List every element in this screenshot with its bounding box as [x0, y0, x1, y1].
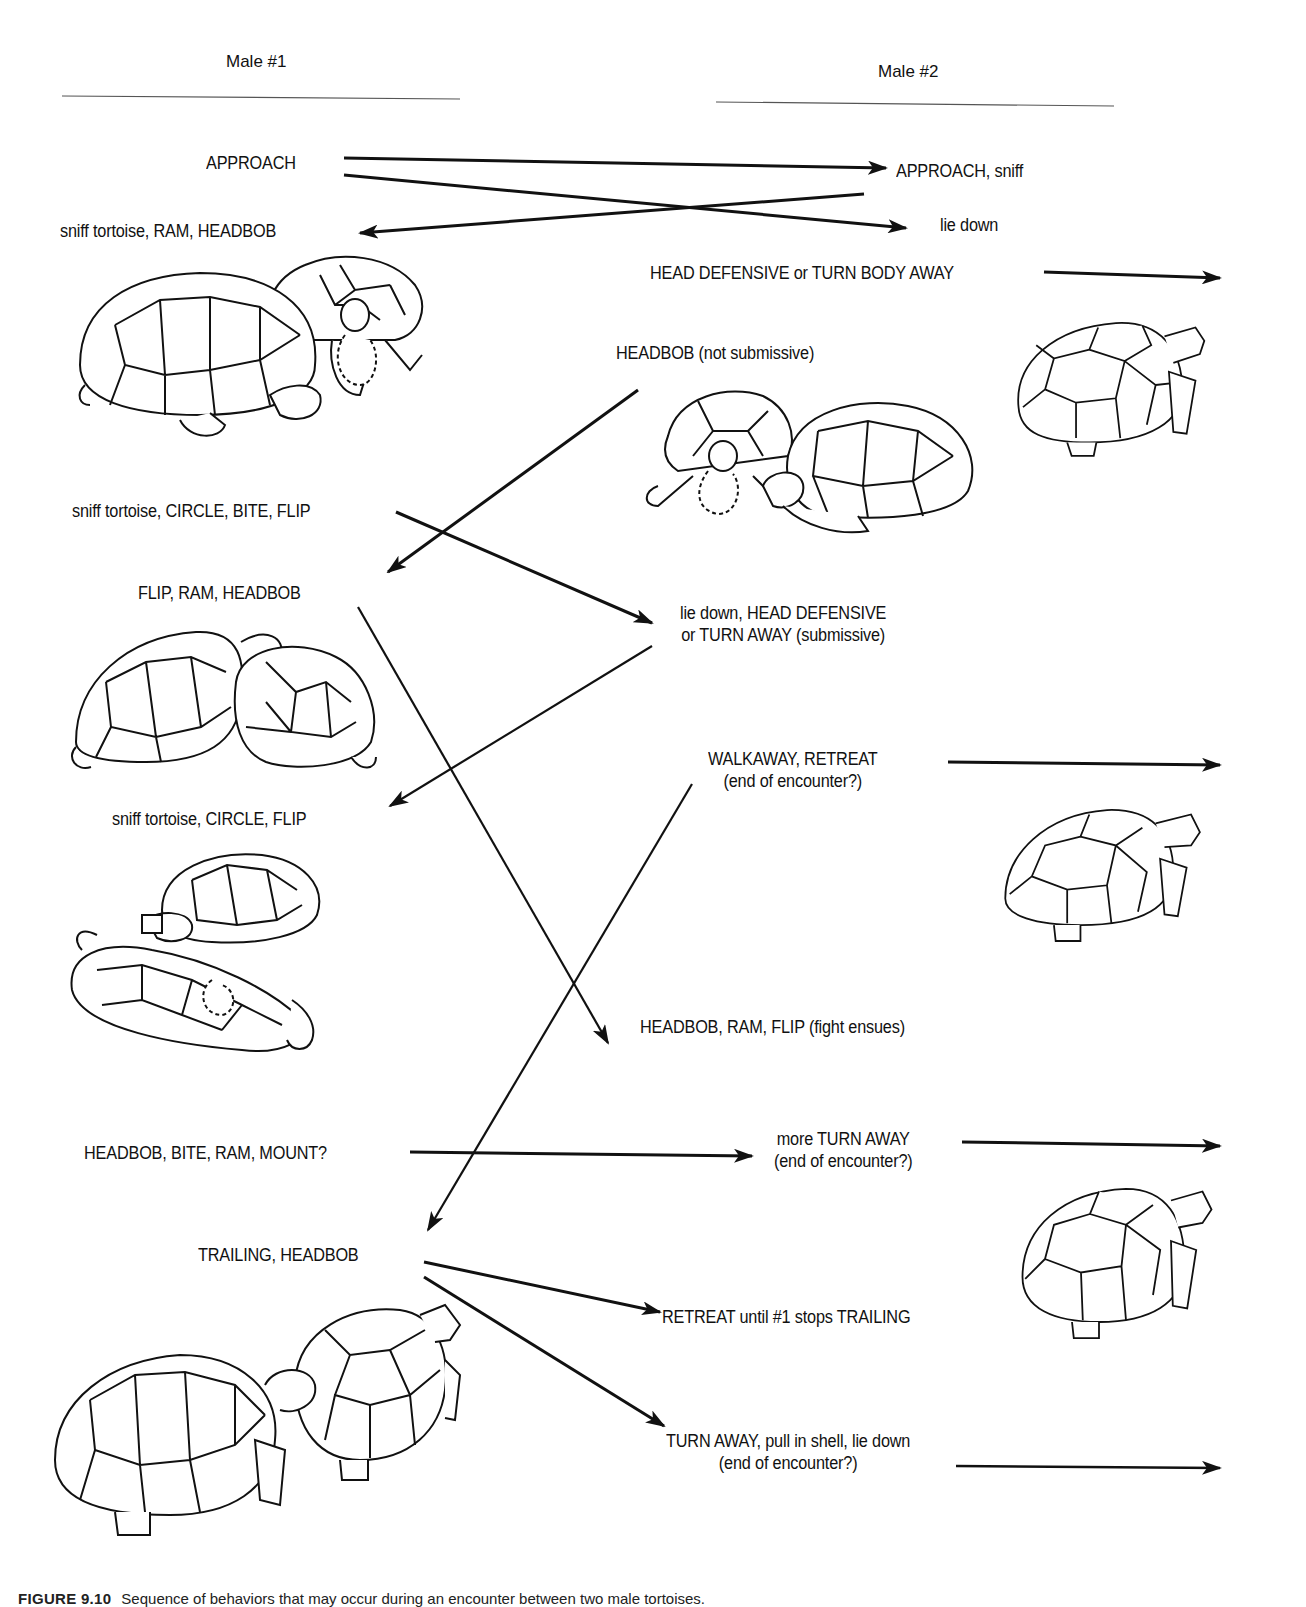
arrow-circle-bite-to-lie-down: [396, 512, 652, 623]
illustration-flipped-circle: [62, 840, 332, 1060]
header-underline-2: [716, 102, 1114, 106]
arrow-approach-to-lie-down: [344, 175, 906, 228]
arrow-mount-to-more-turn-away: [410, 1152, 752, 1156]
m2-lie-down: lie down: [940, 214, 998, 236]
m1-circle-flip: sniff tortoise, CIRCLE, FLIP: [112, 808, 306, 830]
illustration-turn-away: [992, 300, 1222, 470]
m1-flip-ram-headbob: FLIP, RAM, HEADBOB: [138, 582, 301, 604]
illustration-walkaway: [992, 792, 1222, 952]
arrow-submissive-to-circle-flip: [390, 646, 652, 806]
arrow-more-turn-away-out: [962, 1142, 1220, 1146]
m2-fight-ensues: HEADBOB, RAM, FLIP (fight ensues): [640, 1016, 905, 1038]
figure-caption: FIGURE 9.10Sequence of behaviors that ma…: [18, 1590, 705, 1607]
header-underline-1: [62, 96, 460, 99]
illustration-turn-away-2: [1000, 1178, 1225, 1358]
m2-retreat-until: RETREAT until #1 stops TRAILING: [662, 1306, 910, 1328]
figure-number: FIGURE 9.10: [18, 1590, 111, 1607]
illustration-trailing: [50, 1300, 470, 1540]
m1-circle-bite-flip: sniff tortoise, CIRCLE, BITE, FLIP: [72, 500, 310, 522]
m2-submissive: lie down, HEAD DEFENSIVE or TURN AWAY (s…: [680, 602, 886, 646]
arrow-turn-away-out: [956, 1466, 1220, 1468]
illustration-headbob-not-submissive: [638, 376, 988, 546]
m1-approach: APPROACH: [206, 152, 296, 174]
m2-more-turn-away: more TURN AWAY (end of encounter?): [774, 1128, 913, 1172]
m2-headbob-not-submissive: HEADBOB (not submissive): [616, 342, 814, 364]
arrow-flip-ram-to-fight: [358, 607, 608, 1043]
arrow-walkaway-out: [948, 762, 1220, 765]
m2-approach-sniff: APPROACH, sniff: [896, 160, 1023, 182]
m1-trailing-headbob: TRAILING, HEADBOB: [198, 1244, 359, 1266]
m2-walkaway-retreat: WALKAWAY, RETREAT (end of encounter?): [708, 748, 878, 792]
m2-turn-away-pull-in: TURN AWAY, pull in shell, lie down (end …: [666, 1430, 910, 1474]
arrow-head-defensive-out: [1044, 272, 1220, 278]
m1-headbob-bite-ram-mount: HEADBOB, BITE, RAM, MOUNT?: [84, 1142, 327, 1164]
m2-head-defensive: HEAD DEFENSIVE or TURN BODY AWAY: [650, 262, 954, 284]
illustration-flip: [66, 622, 386, 782]
arrow-walkaway-to-trailing: [428, 784, 692, 1230]
m1-sniff-ram-headbob: sniff tortoise, RAM, HEADBOB: [60, 220, 276, 242]
illustration-headbob-ram: [70, 245, 440, 445]
caption-text: Sequence of behaviors that may occur dur…: [121, 1590, 705, 1607]
arrow-approach-to-approach-sniff: [344, 158, 886, 168]
